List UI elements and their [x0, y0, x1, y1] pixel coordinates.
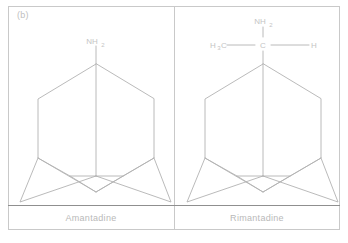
- caption-rimantadine: Rimantadine: [174, 206, 340, 230]
- cage-front-left-leg: [187, 158, 263, 202]
- nh2-label: NH: [86, 37, 98, 46]
- molecule-pane-rimantadine: H 3 C C H NH 2: [175, 6, 340, 205]
- terminal-hydrogen-label: H: [311, 41, 317, 50]
- cage-front-right-leg: [263, 158, 338, 202]
- amantadine-structure: NH 2: [8, 6, 174, 205]
- cage-front-right-leg: [96, 158, 171, 202]
- cage-front-left-leg: [20, 158, 96, 202]
- h3c-label-h: H: [210, 41, 216, 50]
- figure-panel-b: (b) NH 2: [0, 0, 348, 243]
- nh2-label: NH: [254, 17, 266, 26]
- rimantadine-structure: H 3 C C H NH 2: [175, 6, 340, 205]
- h3c-label-c: C: [221, 41, 227, 50]
- central-carbon-label: C: [260, 41, 266, 50]
- cage-rear-right-bridge: [96, 158, 154, 192]
- cage-rear-right-bridge: [263, 158, 321, 192]
- caption-row: Amantadine Rimantadine: [8, 206, 340, 230]
- caption-amantadine: Amantadine: [8, 206, 174, 230]
- nh2-subscript: 2: [269, 22, 273, 28]
- nh2-subscript: 2: [101, 42, 105, 48]
- molecule-pane-amantadine: NH 2: [8, 6, 174, 205]
